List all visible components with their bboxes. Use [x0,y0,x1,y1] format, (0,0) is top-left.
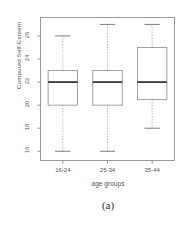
y-tick-label: 22 [24,71,30,91]
x-tick-label: 16-24 [43,167,83,173]
x-tick-label: 25-34 [88,167,128,173]
box-iqr [137,47,166,99]
x-axis-title: age groups [41,180,175,187]
x-tick-label: 35-44 [132,167,172,173]
box-iqr [48,71,77,106]
figure-caption: (a) [41,199,175,211]
figure-panel: Computed Self-Esteem age groups (a) 1618… [0,0,182,231]
y-tick-label: 26 [24,25,30,45]
y-tick-label: 24 [24,48,30,68]
y-tick-label: 16 [24,140,30,160]
box-iqr [93,71,122,106]
boxplot-box [137,24,166,128]
boxplot-box [48,36,77,151]
boxplot-box [93,24,122,151]
y-tick-label: 20 [24,94,30,114]
y-tick-label: 18 [24,117,30,137]
